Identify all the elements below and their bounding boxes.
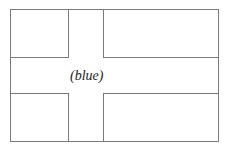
flag-outline <box>0 0 228 153</box>
top-right-field <box>104 10 219 58</box>
flag-border <box>11 10 219 142</box>
cross-color-label: (blue) <box>70 68 103 84</box>
top-left-field <box>11 10 69 58</box>
bottom-left-field <box>11 94 69 142</box>
bottom-right-field <box>104 94 219 142</box>
